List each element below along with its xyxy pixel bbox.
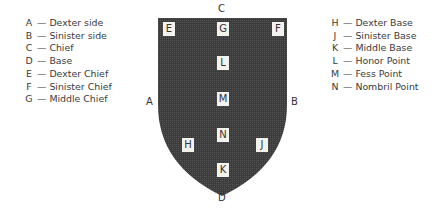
point-c-label: C: [218, 3, 225, 14]
point-a-label: A: [146, 96, 153, 107]
point-f-box: F: [272, 22, 284, 36]
point-g-box: G: [217, 22, 229, 36]
point-m-box: M: [217, 92, 229, 106]
point-e-box: E: [163, 22, 175, 36]
point-d-label: D: [218, 192, 226, 203]
point-k-box: K: [217, 163, 229, 177]
point-n-box: N: [217, 128, 229, 142]
point-h-box: H: [182, 138, 194, 152]
point-b-label: B: [291, 96, 298, 107]
point-l-box: L: [217, 56, 229, 70]
point-j-box: J: [256, 138, 268, 152]
